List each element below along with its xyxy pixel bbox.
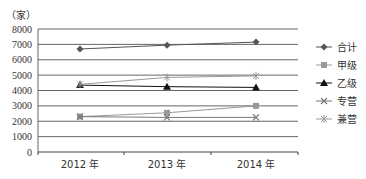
x-tick-label: 2013 年 [148,158,187,170]
diamond-marker-icon [164,42,171,49]
y-axis-unit-label: （家） [6,9,36,21]
y-tick-label: 4000 [12,85,32,96]
legend-item: 专营 [316,95,357,107]
x-tick-label: 2014 年 [237,158,276,170]
legend: 合计甲级乙级专营兼营 [316,41,357,125]
legend-item: 乙级 [316,78,357,89]
y-tick-label: 7000 [12,39,32,50]
y-tick-label: 8000 [12,24,32,35]
y-tick-label: 2000 [12,116,32,127]
square-marker-icon [321,62,327,68]
x-tick-label: 2012 年 [61,158,100,170]
legend-item: 合计 [316,41,357,53]
y-tick-label: 1000 [12,131,32,142]
legend-label: 兼营 [337,113,357,125]
x-axis: 2012 年2013 年2014 年 [38,152,298,170]
legend-label: 甲级 [337,60,357,71]
series-0 [77,39,260,53]
y-tick-label: 3000 [12,100,32,111]
data-series [76,39,260,121]
line-chart: （家） 010002000300040005000600070008000 20… [0,0,366,179]
diamond-marker-icon [77,45,84,52]
y-axis-ticks: 010002000300040005000600070008000 [12,24,32,158]
legend-label: 专营 [337,95,357,107]
legend-item: 甲级 [316,60,357,71]
y-tick-label: 0 [27,147,32,158]
legend-label: 乙级 [337,78,357,89]
diamond-marker-icon [321,44,328,51]
legend-label: 合计 [337,41,357,53]
square-marker-icon [253,103,259,109]
legend-item: 兼营 [316,113,357,125]
y-tick-label: 5000 [12,70,32,81]
y-tick-label: 6000 [12,54,32,65]
